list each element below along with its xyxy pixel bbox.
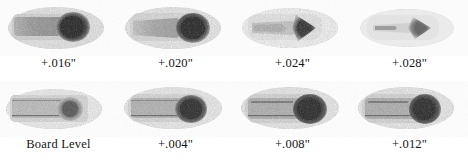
- radiograph-image-bottom-4: [351, 81, 468, 137]
- panel-label-bottom-4: +.012": [351, 137, 468, 152]
- panel-label-top-2: +.020": [117, 56, 234, 71]
- radiograph-image-bottom-2: [117, 81, 234, 137]
- panel-label-bottom-2: +.004": [117, 137, 234, 152]
- panel-cell-bottom-1: Board Level: [0, 81, 117, 162]
- radiograph-image-top-3: [234, 0, 351, 56]
- panel-row-bottom: Board Level: [0, 81, 468, 162]
- panel-label-bottom-3: +.008": [234, 137, 351, 152]
- panel-cell-bottom-3: +.008": [234, 81, 351, 162]
- panel-row-top: +.016": [0, 0, 468, 81]
- panel-label-top-1: +.016": [0, 56, 117, 71]
- panel-label-bottom-1: Board Level: [0, 137, 117, 152]
- panel-cell-top-2: +.020": [117, 0, 234, 81]
- radiograph-image-top-1: [0, 0, 117, 56]
- panel-cell-top-3: +.024": [234, 0, 351, 81]
- radiograph-image-bottom-3: [234, 81, 351, 137]
- radiograph-image-top-4: [351, 0, 468, 56]
- radiograph-image-bottom-1: [0, 81, 117, 137]
- panel-label-top-3: +.024": [234, 56, 351, 71]
- panel-cell-bottom-4: +.012": [351, 81, 468, 162]
- radiograph-figure: +.016": [0, 0, 468, 162]
- panel-cell-bottom-2: +.004": [117, 81, 234, 162]
- radiograph-image-top-2: [117, 0, 234, 56]
- panel-label-top-4: +.028": [351, 56, 468, 71]
- panel-cell-top-4: +.028": [351, 0, 468, 81]
- panel-cell-top-1: +.016": [0, 0, 117, 81]
